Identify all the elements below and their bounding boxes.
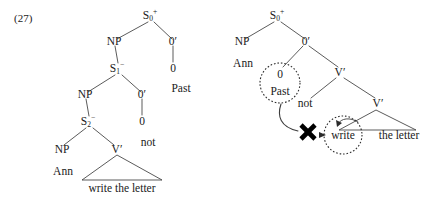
- node-np3-left: NP: [55, 143, 70, 155]
- terminal-ann-right: Ann: [233, 57, 253, 69]
- node-np-right: NP: [235, 35, 250, 47]
- node-vprime-lower-right: V′: [373, 97, 384, 109]
- arrowhead-to-write: [319, 132, 326, 138]
- example-number: (27): [14, 12, 33, 25]
- branch-np2-s2: [86, 99, 89, 116]
- branch-vprime-vprime-right: [344, 78, 375, 98]
- node-s2-left: S2−: [81, 112, 95, 128]
- node-s1-left: S1−: [110, 59, 124, 75]
- syntax-tree-figure: (27) S0+ NP 0′ 0: [0, 0, 432, 201]
- blocked-movement-x-icon: [301, 125, 315, 139]
- node-zero-right: 0: [277, 68, 283, 80]
- terminal-write-right: write: [331, 129, 355, 141]
- right-tree: S0+ NP Ann 0′ 0 Past V′ not V′ write the…: [233, 6, 419, 154]
- terminal-ann-left: Ann: [53, 165, 73, 177]
- terminal-the-letter-right: the letter: [379, 129, 420, 141]
- branch-s0-np1: [117, 22, 148, 39]
- triangle-vprime-writeTheLetter: [82, 155, 162, 180]
- blocked-movement-arrow: [279, 104, 298, 131]
- arrowhead-trace-write: [336, 120, 342, 127]
- branch-oprime-vprime-right: [309, 46, 338, 67]
- node-np2-left: NP: [78, 88, 93, 100]
- tree-diagram-canvas: (27) S0+ NP 0′ 0: [0, 0, 432, 201]
- node-oprime-right: 0′: [302, 35, 310, 47]
- left-tree: S0+ NP 0′ 0 Past S1− NP 0′ 0 not S2− NP …: [53, 6, 191, 193]
- node-s0-right: S0+: [270, 6, 284, 22]
- branch-oprime-zero-right: [283, 46, 303, 67]
- node-np1-left: NP: [107, 35, 122, 47]
- branch-np1-s1: [115, 46, 118, 63]
- node-vprime-left: V′: [112, 143, 123, 155]
- node-zero1-left: 0: [170, 62, 176, 74]
- node-oprime1-left: 0′: [169, 35, 177, 47]
- node-vprime-upper-right: V′: [335, 66, 346, 78]
- node-oprime2-left: 0′: [138, 88, 146, 100]
- triangle-vprime-lower-right: [339, 110, 416, 130]
- terminal-past-right: Past: [270, 85, 290, 97]
- terminal-past-left: Past: [171, 82, 191, 94]
- terminal-not-left: not: [141, 136, 157, 148]
- terminal-not-right: not: [298, 97, 314, 109]
- node-zero2-left: 0: [139, 115, 145, 127]
- node-s0-left: S0+: [143, 6, 157, 22]
- branch-vprime-not-right: [311, 78, 336, 98]
- terminal-write-the-letter-left: write the letter: [88, 182, 155, 194]
